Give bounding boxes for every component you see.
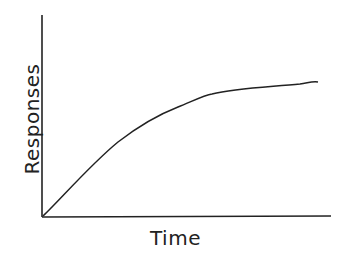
response-curve	[43, 82, 318, 216]
x-axis-label: Time	[150, 226, 201, 250]
x-axis	[42, 216, 331, 217]
y-axis-label: Responses	[20, 49, 44, 189]
